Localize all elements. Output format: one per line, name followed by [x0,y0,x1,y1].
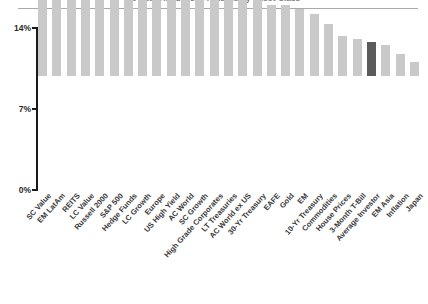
y-tick-mark-7 [32,108,37,110]
x-axis-labels: SC ValueEM LatAmREITSLC ValueRussell 200… [38,192,424,302]
x-axis-label-text: Gold [279,192,296,210]
x-axis-label: Gold [279,192,296,210]
y-tick-label-14: 14% [1,24,31,33]
y-axis-labels: 0%7%14% [0,0,31,304]
y-tick-mark-0 [32,189,37,191]
chart-figure: 20-Year Annualized Returns by Asset Clas… [0,0,428,304]
plot-area [37,28,424,190]
y-tick-label-0: 0% [1,186,31,195]
y-tick-mark-14 [32,27,37,29]
y-tick-label-7: 7% [1,105,31,114]
